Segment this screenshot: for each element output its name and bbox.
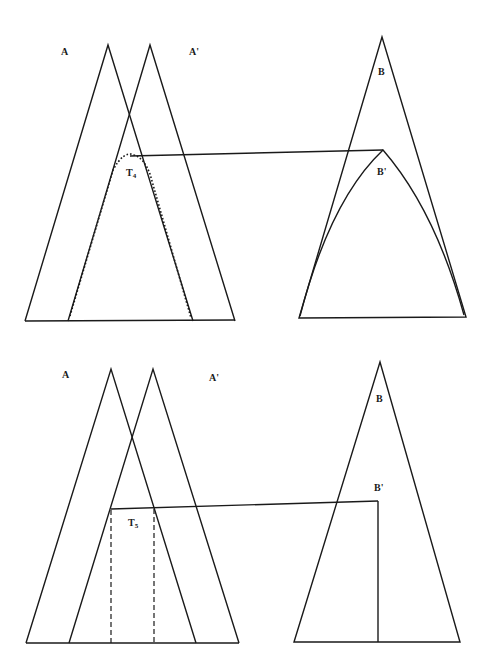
label-a: A	[62, 369, 70, 380]
label-t4-sub: 4	[133, 172, 137, 180]
diagram-canvas: A A' B B' T4 A A' B B' T5	[0, 0, 489, 668]
triangle-b	[294, 362, 460, 642]
label-b-prime: B'	[374, 482, 384, 493]
label-b: B	[376, 393, 383, 404]
baseline-a	[25, 320, 235, 321]
label-b-prime: B'	[377, 166, 387, 177]
triangle-a-prime	[68, 45, 235, 321]
triangle-b	[299, 37, 466, 318]
connector-t5-b-prime	[111, 501, 378, 509]
bottom-panel: A A' B B' T5	[26, 362, 460, 643]
label-t5: T5	[128, 517, 139, 530]
top-panel: A A' B B' T4	[25, 37, 466, 321]
label-t4: T4	[126, 167, 137, 180]
label-b: B	[378, 66, 385, 77]
label-a: A	[61, 46, 69, 57]
label-t5-sub: 5	[135, 522, 139, 530]
connector-t4-b-prime	[130, 150, 383, 156]
label-a-prime: A'	[209, 372, 219, 383]
label-a-prime: A'	[189, 46, 199, 57]
t4-dotted-region	[70, 154, 191, 318]
